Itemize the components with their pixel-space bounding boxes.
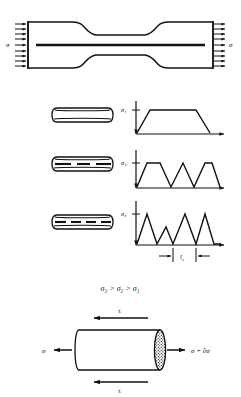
sigma1-profile-curve	[137, 110, 210, 133]
right-stress-label: σ	[229, 41, 233, 49]
figure-canvas: σ σ σ₁	[0, 0, 241, 397]
fiber-row-1-top-edge	[55, 110, 110, 111]
sigma2-axis-label: σ₂	[121, 159, 127, 166]
row-2-group: σ₂	[52, 150, 224, 188]
sigma3-profile-curve	[137, 214, 221, 244]
critical-length-dimension: lc	[159, 248, 210, 262]
row-3-group: σ₃ lc	[52, 201, 224, 262]
left-load-arrows	[15, 24, 26, 66]
fiber-row-3-bottom-edge	[54, 225, 111, 226]
fiber-row-2-bottom-edge	[54, 167, 111, 168]
figure-root: σ σ σ₁	[0, 0, 241, 397]
cylinder-end-face-stippled	[154, 330, 165, 370]
lc-label: lc	[180, 253, 185, 262]
tau-top-label: τᵢ	[118, 307, 121, 314]
sigma2-profile-curve	[137, 163, 220, 187]
cylinder-left-edge	[75, 330, 78, 370]
fiber-row-2-top-edge	[55, 159, 110, 160]
row-1-group: σ₁	[52, 101, 224, 134]
fiber-row-1-bottom-edge	[54, 118, 111, 119]
sigma-right-label: σ + ∂σ	[191, 347, 210, 355]
sigma-left-label: σ	[42, 347, 46, 355]
shear-element-group: τᵢ τᵢ σ σ + ∂σ	[42, 307, 210, 394]
tau-bottom-label: τᵢ	[118, 387, 121, 394]
dogbone-specimen-group: σ σ	[6, 21, 233, 69]
fiber-row-3-top-edge	[55, 217, 110, 218]
right-load-arrows	[214, 24, 225, 66]
sigma3-axis-label: σ₃	[121, 210, 126, 217]
sigma1-axis-label: σ₁	[121, 106, 126, 113]
stress-inequality: σ₃ > σ₂ > σ₁	[101, 284, 140, 293]
left-stress-label: σ	[6, 41, 10, 49]
